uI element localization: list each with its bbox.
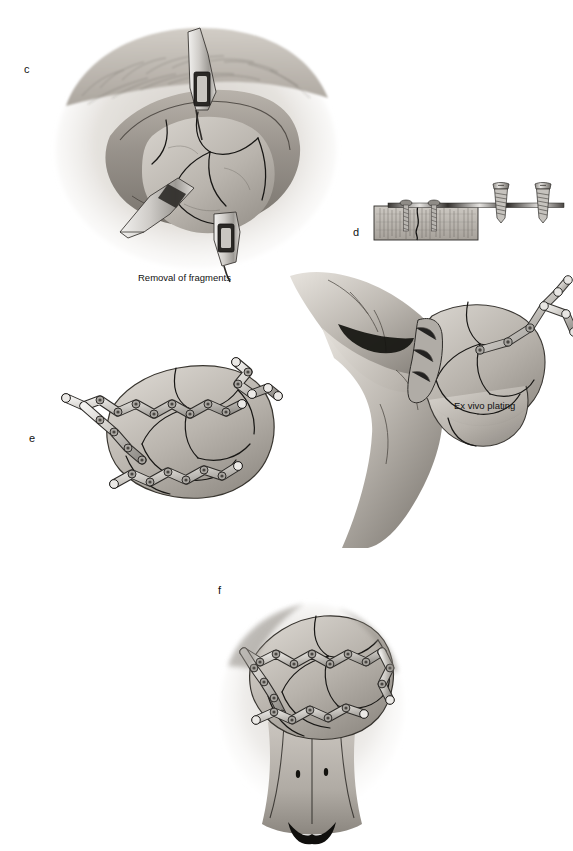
panel-d-illustration xyxy=(282,258,572,548)
panel-f-illustration xyxy=(212,596,412,846)
caption-ex-vivo-plating: Ex vivo plating xyxy=(454,400,515,411)
panel-letter-f: f xyxy=(218,585,221,596)
panel-letter-e: e xyxy=(29,433,35,444)
midline-structures xyxy=(262,722,362,844)
panel-letter-d: d xyxy=(353,227,359,238)
panel-letter-c: c xyxy=(24,64,30,75)
loose-screw-2 xyxy=(535,183,551,224)
gloved-hand xyxy=(290,272,444,548)
loose-screw-1 xyxy=(493,183,509,224)
caption-removal-of-fragments: Removal of fragments xyxy=(138,272,231,283)
panel-e-illustration xyxy=(62,356,288,508)
figure-surgical-plating: c xyxy=(0,0,573,851)
panel-d-cross-section-inset xyxy=(372,182,568,244)
bone-block xyxy=(374,206,478,240)
panel-c-illustration xyxy=(48,18,338,283)
